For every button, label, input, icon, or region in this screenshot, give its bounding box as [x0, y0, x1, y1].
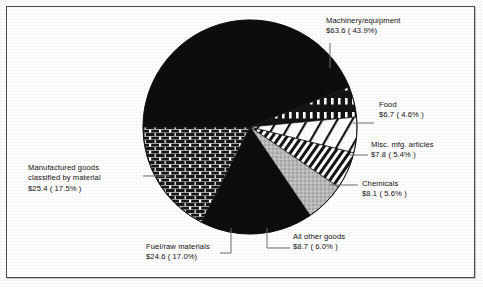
label-machinery-value: $63.6 ( 43.9%) — [326, 26, 401, 36]
label-chemicals-name: Chemicals — [362, 179, 407, 189]
label-machinery: Machinery/equipment $63.6 ( 43.9%) — [326, 16, 401, 37]
label-all-other-goods-name: All other goods — [293, 232, 345, 242]
label-misc-mfg-articles: Misc. mfg. articles $7.8 ( 5.4% ) — [371, 140, 434, 161]
pie-chart-figure: Machinery/equipment $63.6 ( 43.9%) Food … — [0, 0, 483, 287]
label-all-other-goods-value: $8.7 ( 6.0% ) — [293, 242, 345, 252]
label-food-value: $6.7 ( 4.6% ) — [379, 110, 424, 120]
screenshot-page: Machinery/equipment $63.6 ( 43.9%) Food … — [0, 0, 483, 287]
label-all-other-goods: All other goods $8.7 ( 6.0% ) — [293, 232, 345, 253]
label-manufactured-goods: Manufactured goods classified by materia… — [28, 163, 101, 194]
label-misc-name: Misc. mfg. articles — [371, 140, 434, 150]
label-misc-value: $7.8 ( 5.4% ) — [371, 150, 434, 160]
label-chemicals-value: $8.1 ( 5.6% ) — [362, 189, 407, 199]
label-manufactured-name-1: Manufactured goods — [28, 163, 101, 173]
label-manufactured-name-2: classified by material — [28, 173, 101, 183]
label-chemicals: Chemicals $8.1 ( 5.6% ) — [362, 179, 407, 200]
label-fuel-name: Fuel/raw materials — [146, 242, 210, 252]
label-food: Food $6.7 ( 4.6% ) — [379, 100, 424, 121]
label-fuel-raw-materials: Fuel/raw materials $24.6 ( 17.0%) — [146, 242, 210, 263]
label-machinery-name: Machinery/equipment — [326, 16, 401, 26]
label-fuel-value: $24.6 ( 17.0%) — [146, 252, 210, 262]
label-manufactured-value: $25.4 ( 17.5% ) — [28, 184, 101, 194]
label-food-name: Food — [379, 100, 424, 110]
